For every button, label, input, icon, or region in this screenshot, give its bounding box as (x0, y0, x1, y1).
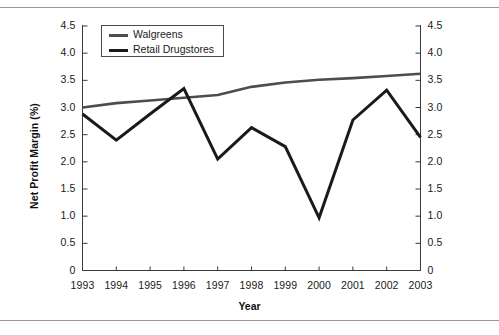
y-tick-label-right: 2.0 (428, 155, 458, 167)
y-tick-label-left: 3.5 (46, 73, 76, 85)
y-tick-label-left: 2.5 (46, 128, 76, 140)
legend-item-retail-drugstores: Retail Drugstores (102, 42, 223, 58)
y-tick-label-right: 1.5 (428, 182, 458, 194)
y-tick-label-left: 3.0 (46, 101, 76, 113)
y-axis-title: Net Profit Margin (%) (28, 76, 40, 236)
y-tick-label-left: 0 (46, 264, 76, 276)
y-tick-label-left: 2.0 (46, 155, 76, 167)
legend-label-walgreens: Walgreens (133, 28, 183, 40)
chart-legend: Walgreens Retail Drugstores (101, 25, 224, 57)
chart-figure: 00.51.01.52.02.53.03.54.04.5 00.51.01.52… (0, 0, 499, 335)
y-tick-label-right: 1.0 (428, 209, 458, 221)
x-tick-label: 2003 (401, 279, 441, 291)
y-tick-label-right: 4.5 (428, 19, 458, 31)
series-line-walgreens (83, 74, 421, 108)
data-series-lines (83, 74, 421, 218)
y-tick-label-right: 0.5 (428, 236, 458, 248)
y-tick-label-left: 0.5 (46, 236, 76, 248)
y-tick-label-left: 4.5 (46, 19, 76, 31)
y-tick-label-right: 3.0 (428, 101, 458, 113)
y-tick-label-right: 2.5 (428, 128, 458, 140)
y-tick-label-left: 1.5 (46, 182, 76, 194)
y-tick-label-right: 3.5 (428, 73, 458, 85)
y-tick-label-left: 1.0 (46, 209, 76, 221)
x-axis-title: Year (0, 300, 499, 312)
y-tick-label-right: 0 (428, 264, 458, 276)
y-tick-label-right: 4.0 (428, 46, 458, 58)
axis-ticks (83, 26, 421, 271)
y-tick-label-left: 4.0 (46, 46, 76, 58)
legend-item-walgreens: Walgreens (102, 27, 223, 43)
series-line-retail-drugstores (83, 88, 421, 217)
legend-swatch-retail-drugstores (109, 49, 128, 53)
legend-swatch-walgreens (109, 34, 128, 37)
legend-label-retail-drugstores: Retail Drugstores (133, 43, 214, 55)
axis-lines (83, 25, 421, 271)
